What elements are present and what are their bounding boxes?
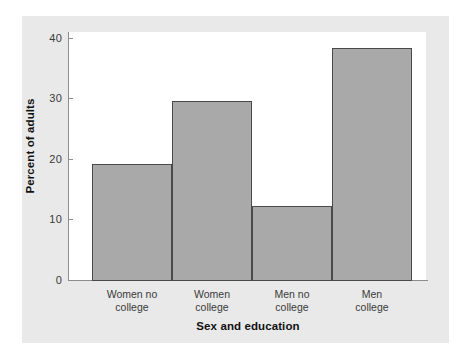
y-axis-tick-label-40: 40 (38, 33, 62, 44)
y-axis-tick-label-10: 10 (38, 214, 62, 225)
y-axis-tick-40 (68, 38, 73, 39)
chart-figure: 40 30 20 10 0 Percent of adults Women no… (0, 0, 469, 356)
y-axis-tick-label-0: 0 (38, 275, 62, 286)
bar-men-no-college[interactable] (252, 206, 332, 281)
x-axis-label-men-college: Men college (322, 288, 422, 314)
y-axis-tick-label-40-wrap: 40 (38, 33, 62, 44)
y-axis-tick-0 (68, 280, 73, 281)
x-axis-title: Sex and education (68, 320, 428, 332)
x-axis-label-line-1: Men (322, 288, 422, 301)
y-axis-tick-20 (68, 159, 73, 160)
y-axis-tick-label-10-wrap: 10 (38, 214, 62, 225)
y-axis-tick-30 (68, 98, 73, 99)
bar-women-college[interactable] (172, 101, 252, 281)
y-axis-tick-label-30-wrap: 30 (38, 93, 62, 104)
y-axis-tick-label-30: 30 (38, 93, 62, 104)
y-axis-tick-label-20: 20 (38, 154, 62, 165)
y-axis-tick-label-0-wrap: 0 (38, 275, 62, 286)
y-axis-tick-label-20-wrap: 20 (38, 154, 62, 165)
bar-women-no-college[interactable] (92, 164, 172, 281)
bar-men-college[interactable] (332, 48, 412, 281)
y-axis-tick-10 (68, 219, 73, 220)
y-axis-line (68, 32, 69, 281)
x-axis-label-line-2: college (322, 301, 422, 314)
y-axis-title: Percent of adults (24, 86, 36, 206)
